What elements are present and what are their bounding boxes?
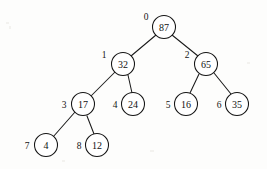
node-index-label: 0 bbox=[144, 12, 149, 22]
node-index-label: 5 bbox=[166, 100, 171, 110]
node-index-label: 1 bbox=[102, 50, 107, 60]
node-index-label: 8 bbox=[77, 141, 82, 151]
node-value-label: 35 bbox=[232, 99, 242, 110]
edge-65-35 bbox=[214, 73, 231, 94]
edge-32-17 bbox=[91, 72, 115, 96]
tree-node[interactable]: 870 bbox=[144, 12, 176, 39]
node-value-label: 17 bbox=[78, 99, 88, 110]
edge-17-12 bbox=[87, 116, 94, 134]
node-index-label: 3 bbox=[62, 100, 67, 110]
node-value-label: 4 bbox=[44, 140, 49, 151]
node-value-label: 12 bbox=[92, 140, 102, 151]
edge-87-32 bbox=[131, 35, 156, 56]
edge-32-24 bbox=[128, 75, 132, 93]
tree-node[interactable]: 321 bbox=[102, 50, 135, 76]
node-value-label: 32 bbox=[118, 59, 128, 70]
binary-tree-graphic: 87032165217324416535647128 bbox=[0, 0, 267, 169]
edge-17-4 bbox=[53, 112, 75, 137]
edges-group bbox=[53, 35, 231, 137]
tree-node[interactable]: 128 bbox=[77, 134, 109, 157]
node-index-label: 2 bbox=[185, 50, 190, 60]
node-value-label: 16 bbox=[181, 99, 191, 110]
nodes-group: 87032165217324416535647128 bbox=[25, 12, 249, 157]
tree-node[interactable]: 165 bbox=[166, 93, 198, 116]
node-value-label: 65 bbox=[201, 59, 211, 70]
tree-node[interactable]: 356 bbox=[217, 93, 249, 116]
node-value-label: 24 bbox=[128, 99, 138, 110]
node-value-label: 87 bbox=[159, 22, 169, 33]
tree-diagram-canvas: 87032165217324416535647128 bbox=[0, 0, 267, 169]
edge-65-16 bbox=[190, 74, 199, 93]
tree-node[interactable]: 47 bbox=[25, 134, 58, 157]
node-index-label: 7 bbox=[25, 141, 30, 151]
tree-node[interactable]: 652 bbox=[185, 50, 218, 76]
node-index-label: 6 bbox=[217, 100, 222, 110]
node-index-label: 4 bbox=[113, 100, 118, 110]
tree-node[interactable]: 173 bbox=[62, 93, 95, 116]
tree-node[interactable]: 244 bbox=[113, 93, 145, 116]
